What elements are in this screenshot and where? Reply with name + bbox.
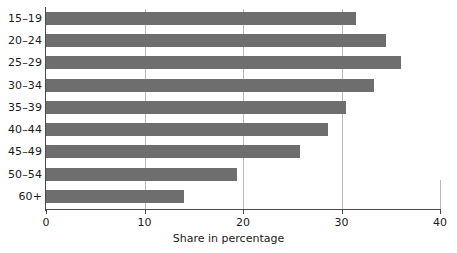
x-tick-0 [46,209,47,214]
category-label: 35–39 [0,101,42,114]
x-tick-label: 30 [335,216,349,229]
bar [46,79,374,92]
bar-row [46,145,300,158]
bar [46,101,346,114]
bar [46,34,386,47]
right-edge-rule [440,180,441,209]
x-tick-30 [342,209,343,214]
x-tick-label: 0 [43,216,50,229]
bar-row [46,34,386,47]
bar [46,123,328,136]
bar-row [46,123,328,136]
category-label: 25–29 [0,56,42,69]
category-label: 15–19 [0,12,42,25]
bar-row [46,12,356,25]
x-tick-label: 40 [433,216,447,229]
bar-row [46,79,374,92]
category-label: 20–24 [0,34,42,47]
x-tick-40 [440,209,441,214]
plot-area [46,9,440,209]
bar-row [46,56,401,69]
category-label: 50–54 [0,168,42,181]
category-label: 30–34 [0,79,42,92]
x-axis-title: Share in percentage [0,232,457,245]
bar-row [46,168,237,181]
bar [46,12,356,25]
bar-chart: 15–1920–2425–2930–3435–3940–4445–4950–54… [0,0,457,253]
x-tick-20 [243,209,244,214]
x-tick-label: 10 [138,216,152,229]
bar-row [46,190,184,203]
bar [46,145,300,158]
x-tick-label: 20 [236,216,250,229]
bar [46,168,237,181]
x-tick-10 [145,209,146,214]
category-label: 60+ [0,190,42,203]
bar [46,56,401,69]
category-label: 40–44 [0,123,42,136]
y-axis-category-labels: 15–1920–2425–2930–3435–3940–4445–4950–54… [0,9,42,209]
category-label: 45–49 [0,145,42,158]
bar [46,190,184,203]
bar-row [46,101,346,114]
